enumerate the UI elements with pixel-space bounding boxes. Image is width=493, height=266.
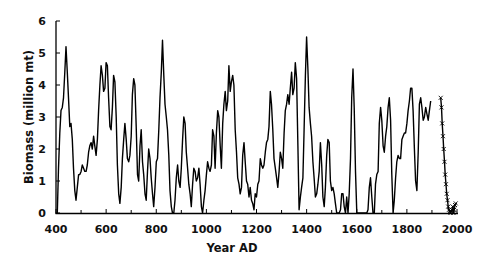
x-tick-label: 600 (95, 223, 118, 236)
x-tick-label: 1000 (191, 223, 222, 236)
y-tick-label: 3 (38, 111, 46, 124)
x-tick-label: 1200 (241, 223, 272, 236)
y-axis-ticks: 0123456 (38, 15, 60, 220)
x-tick-label: 800 (145, 223, 168, 236)
x-tick-label: 1600 (341, 223, 372, 236)
plot-area (57, 37, 457, 215)
x-tick-label: 1800 (392, 223, 423, 236)
y-tick-label: 6 (38, 15, 46, 28)
x-tick-label: 2000 (442, 223, 473, 236)
y-axis-title: Biomass (million mt) (22, 50, 36, 184)
x-axis-title: Year AD (206, 241, 258, 255)
biomass-line-chart: 0123456 40060080010001200140016001800200… (0, 0, 493, 266)
y-tick-label: 5 (38, 47, 46, 60)
x-tick-label: 400 (45, 223, 68, 236)
y-tick-label: 2 (38, 143, 46, 156)
series-line-0 (57, 37, 430, 213)
y-tick-label: 4 (38, 79, 46, 92)
x-tick-label: 1400 (291, 223, 322, 236)
y-tick-label: 0 (38, 207, 46, 220)
y-tick-label: 1 (38, 175, 46, 188)
